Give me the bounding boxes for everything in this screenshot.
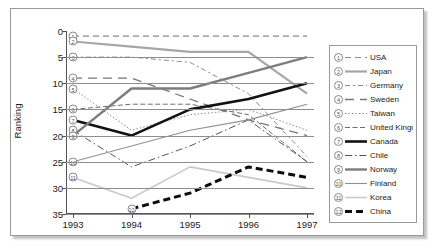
legend: 1USA2Japan3Germany4Sweden5Taiwan6United … [329,45,417,223]
legend-item-finland[interactable]: 10Finland [334,176,413,190]
y-tick-mark [62,188,66,189]
legend-item-korea[interactable]: 11Korea [334,190,413,204]
legend-number: 10 [334,179,343,188]
gridline [66,136,314,137]
legend-label: Chile [370,151,413,160]
legend-item-united-kingdom[interactable]: 6United Kingdom [334,120,413,134]
legend-line-swatch [345,151,367,160]
legend-line-swatch [345,95,367,104]
y-tick-mark [62,162,66,163]
x-tick-mark [249,214,250,218]
series-line-united-kingdom [73,104,307,162]
y-tick-mark [62,83,66,84]
y-axis: 05101520253035 [29,31,63,214]
x-tick-label: 1996 [238,219,259,230]
series-marker-5: 5 [69,84,78,93]
legend-label: China [370,207,413,216]
legend-number: 12 [334,207,343,216]
legend-line-swatch [345,53,367,62]
gridline [66,83,314,84]
series-marker-2: 2 [69,37,78,46]
gridline [66,162,314,163]
x-tick-label: 1995 [179,219,200,230]
y-tick-mark [62,109,66,110]
legend-line-swatch [345,193,367,202]
legend-line-swatch [345,123,367,132]
series-marker-7: 7 [69,115,78,124]
legend-number: 1 [334,53,343,62]
legend-line-swatch [345,179,367,188]
legend-label: Norway [370,165,413,174]
gridline [66,57,314,58]
gridline [66,109,314,110]
series-marker-12: 12 [127,204,136,213]
chart-figure: Ranking 05101520253035 123456789101112 1… [10,8,424,236]
legend-number: 5 [334,109,343,118]
legend-label: USA [370,53,413,62]
x-axis: 19931994199519961997 [66,214,314,234]
legend-number: 6 [334,123,343,132]
legend-item-chile[interactable]: 8Chile [334,148,413,162]
legend-line-swatch [345,67,367,76]
series-line-chile [73,120,307,167]
legend-line-swatch [345,137,367,146]
legend-item-sweden[interactable]: 4Sweden [334,92,413,106]
legend-label: Sweden [370,95,413,104]
legend-item-usa[interactable]: 1USA [334,50,413,64]
legend-number: 3 [334,81,343,90]
y-tick-mark [62,31,66,32]
legend-item-canada[interactable]: 7Canada [334,134,413,148]
legend-number: 8 [334,151,343,160]
legend-item-norway[interactable]: 9Norway [334,162,413,176]
legend-number: 7 [334,137,343,146]
legend-label: Korea [370,193,413,202]
legend-item-germany[interactable]: 3Germany [334,78,413,92]
legend-label: Germany [370,81,413,90]
legend-number: 11 [334,193,343,202]
legend-label: Finland [370,179,413,188]
legend-label: Taiwan [370,109,413,118]
y-axis-title: Ranking [12,104,23,139]
legend-label: United Kingdom [370,123,413,132]
plot-area: 123456789101112 [66,31,314,214]
series-marker-11: 11 [69,173,78,182]
legend-label: Japan [370,67,413,76]
legend-number: 9 [334,165,343,174]
legend-line-swatch [345,207,367,216]
x-tick-mark [132,214,133,218]
x-tick-mark [73,214,74,218]
legend-line-swatch [345,81,367,90]
x-tick-label: 1997 [296,219,317,230]
legend-item-china[interactable]: 12China [334,204,413,218]
legend-line-swatch [345,165,367,174]
x-tick-label: 1994 [121,219,142,230]
series-lines [66,31,314,214]
legend-item-taiwan[interactable]: 5Taiwan [334,106,413,120]
legend-number: 4 [334,95,343,104]
x-tick-mark [190,214,191,218]
y-tick-mark [62,136,66,137]
x-tick-label: 1993 [62,219,83,230]
series-marker-4: 4 [69,74,78,83]
legend-label: Canada [370,137,413,146]
x-tick-mark [307,214,308,218]
y-tick-mark [62,57,66,58]
legend-item-japan[interactable]: 2Japan [334,64,413,78]
legend-number: 2 [334,67,343,76]
gridline [66,188,314,189]
legend-line-swatch [345,109,367,118]
